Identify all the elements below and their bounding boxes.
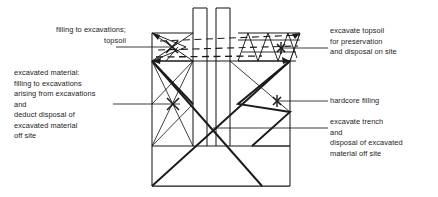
arrowhead-topsoil-left-upper	[152, 33, 160, 40]
bold-diagonal-right-to-bottom-left	[152, 61, 290, 186]
bold-zigzag-right	[238, 61, 290, 146]
annotation-excavate-trench: excavate trench and disposal of excavate…	[330, 117, 403, 159]
cavity-wall-group	[193, 8, 230, 146]
annotation-line: excavated material:	[14, 68, 95, 79]
annotation-line: topsoil	[56, 36, 126, 47]
annotation-line: excavate trench	[330, 117, 403, 128]
hatch-left-diagonal-e	[152, 104, 193, 146]
diagram-canvas: filling to excavations; topsoil excavate…	[0, 0, 438, 197]
annotation-line: off site	[14, 131, 95, 142]
annotation-line: filling to excavations;	[56, 25, 126, 36]
annotation-line: and	[14, 100, 95, 111]
annotation-line: arising from excavations	[14, 89, 95, 100]
annotation-filling-to-excavations: filling to excavations; topsoil	[56, 25, 126, 46]
annotation-line: hardcore filling	[330, 96, 379, 107]
annotation-hardcore-filling: hardcore filling	[330, 96, 379, 107]
annotation-line: disposal of excavated	[330, 138, 403, 149]
annotation-excavated-material: excavated material: filling to excavatio…	[14, 68, 95, 142]
trench-bold-lines-group	[152, 61, 290, 186]
annotation-line: excavated material	[14, 121, 95, 132]
annotation-line: for preservation	[330, 37, 397, 48]
annotation-line: filling to excavations	[14, 79, 95, 90]
annotation-line: and	[330, 128, 403, 139]
annotation-line: material off site	[330, 149, 403, 160]
annotation-line: excavate topsoil	[330, 26, 397, 37]
dashed-ground-line-lower	[156, 56, 262, 57]
annotation-line: and disposal on site	[330, 47, 397, 58]
annotation-line: deduct disposal of	[14, 110, 95, 121]
annotation-excavate-topsoil: excavate topsoil for preservation and di…	[330, 26, 397, 58]
